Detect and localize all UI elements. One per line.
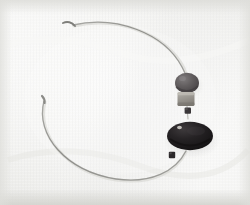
necklace-photo	[0, 0, 250, 205]
background-cloth	[0, 0, 250, 205]
pendant-disc	[167, 122, 213, 150]
cube-light-bead	[178, 92, 195, 106]
round-dark-bead	[175, 73, 199, 93]
small-square-bead	[185, 108, 191, 114]
photograph-container: Wire torc necklace with three beads	[0, 0, 250, 205]
small-clasp-bead	[169, 152, 175, 158]
